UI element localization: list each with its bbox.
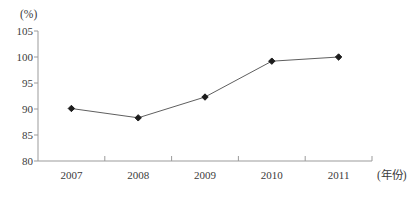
y-tick-label: 80 <box>22 155 34 167</box>
x-tick-label: 2009 <box>194 169 217 181</box>
x-tick-label: 2010 <box>261 169 284 181</box>
y-tick-label: 95 <box>22 77 34 89</box>
x-tick-label: 2008 <box>127 169 150 181</box>
y-tick-label: 85 <box>22 129 34 141</box>
data-point-marker <box>68 105 74 111</box>
x-tick-label: 2007 <box>60 169 83 181</box>
series-line <box>71 57 338 118</box>
data-point-marker <box>135 115 141 121</box>
percentage-line-chart: (%) (年份) 8085909510010520072008200920102… <box>0 0 407 198</box>
y-tick-label: 105 <box>17 25 34 37</box>
chart-canvas: (%) (年份) 8085909510010520072008200920102… <box>0 0 407 198</box>
data-point-marker <box>269 58 275 64</box>
y-axis-unit-label: (%) <box>20 8 37 21</box>
x-tick-label: 2011 <box>328 169 350 181</box>
x-axis-unit-label: (年份) <box>377 168 407 182</box>
data-point-marker <box>335 54 341 60</box>
data-point-marker <box>202 94 208 100</box>
y-tick-label: 90 <box>22 103 34 115</box>
y-tick-label: 100 <box>17 51 34 63</box>
